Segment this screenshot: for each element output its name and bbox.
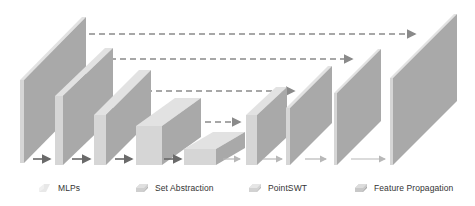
- legend-label: MLPs: [58, 183, 80, 193]
- block-dec1: [246, 87, 287, 165]
- architecture-diagram: MLPs Set Abstraction PointSWT: [0, 0, 475, 206]
- legend-item-feature-propagation: Feature Propagation: [354, 183, 453, 193]
- diagram-canvas: [0, 0, 475, 206]
- legend: MLPs Set Abstraction PointSWT: [0, 183, 475, 199]
- legend-item-pointswt: PointSWT: [248, 183, 307, 193]
- legend-label: Set Abstraction: [155, 183, 214, 193]
- legend-label: PointSWT: [268, 183, 307, 193]
- legend-item-mlps: MLPs: [38, 183, 80, 193]
- legend-label: Feature Propagation: [374, 183, 453, 193]
- feature-blocks: [20, 14, 457, 165]
- legend-item-set-abstraction: Set Abstraction: [135, 183, 214, 193]
- feature-propagation-swatch-icon: [354, 183, 368, 193]
- set-abstraction-swatch-icon: [135, 183, 149, 193]
- block-dec2: [286, 66, 332, 165]
- block-dec3: [334, 49, 381, 165]
- pointswt-swatch-icon: [248, 183, 262, 193]
- block-dec4: [390, 14, 457, 165]
- mlps-swatch-icon: [38, 183, 52, 193]
